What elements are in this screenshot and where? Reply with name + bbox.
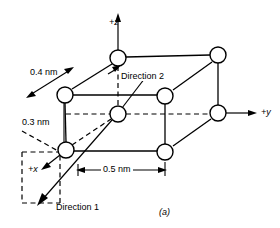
atoms: [57, 47, 226, 160]
atom-bottom-front-left: [58, 142, 74, 158]
annotation-label-direction-2: Direction 2: [120, 72, 165, 81]
hidden-edges: [22, 66, 210, 203]
dimension-label-width: 0.5 nm: [101, 165, 133, 174]
axis-label-z: +z: [109, 18, 119, 27]
crystal-lattice-figure: +z +y +x 0.4 nm 0.3 nm 0.5 nm Direction …: [0, 0, 280, 228]
atom-top-back-left: [110, 50, 126, 66]
axis-label-y: +y: [261, 108, 271, 117]
atom-top-front-left: [57, 87, 73, 103]
atom-top-back-right: [210, 47, 226, 63]
figure-caption: (a): [159, 208, 170, 217]
axis-label-x: +x: [28, 165, 38, 174]
cell-edges: [65, 55, 218, 151]
atom-origin: [110, 106, 126, 122]
lattice-drawing: [0, 0, 280, 228]
dimension-label-depth: 0.4 nm: [30, 68, 58, 77]
atom-bottom-front-mid: [157, 144, 173, 160]
atom-top-front-mid: [157, 88, 173, 104]
annotation-label-direction-1: Direction 1: [56, 203, 99, 212]
atom-mid-right: [210, 105, 226, 121]
dimension-label-height: 0.3 nm: [22, 118, 50, 127]
direction-1-vector: [37, 120, 112, 206]
